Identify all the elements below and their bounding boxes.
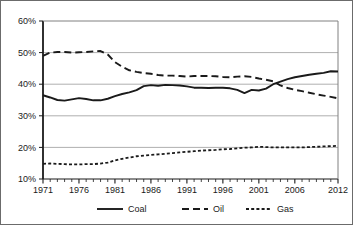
x-axis-tick-label: 1971 bbox=[33, 185, 53, 195]
x-axis-tick-label: 1991 bbox=[177, 185, 197, 195]
y-axis-tick-label: 40% bbox=[18, 79, 36, 89]
x-axis-tick-label: 2012 bbox=[328, 185, 348, 195]
line-chart: 10%20%30%40%50%60% 197119761981198619911… bbox=[1, 1, 353, 225]
x-axis-tick-label: 1981 bbox=[105, 185, 125, 195]
x-axis-tick-labels: 197119761981198619911996200120062012 bbox=[33, 185, 348, 195]
x-axis-tick-label: 2001 bbox=[249, 185, 269, 195]
x-axis-tick-marks bbox=[43, 179, 338, 184]
x-axis-tick-label: 1976 bbox=[69, 185, 89, 195]
x-axis-tick-label: 2006 bbox=[285, 185, 305, 195]
y-axis-tick-label: 30% bbox=[18, 111, 36, 121]
chart-legend: CoalOilGas bbox=[97, 204, 294, 214]
chart-figure: 10%20%30%40%50%60% 197119761981198619911… bbox=[0, 0, 353, 225]
y-axis-tick-label: 10% bbox=[18, 174, 36, 184]
legend-label-coal: Coal bbox=[128, 204, 147, 214]
legend-label-oil: Oil bbox=[213, 204, 224, 214]
x-axis-tick-label: 1986 bbox=[141, 185, 161, 195]
x-axis-tick-label: 1996 bbox=[213, 185, 233, 195]
y-axis-tick-label: 20% bbox=[18, 143, 36, 153]
y-axis-tick-label: 60% bbox=[18, 16, 36, 26]
legend-label-gas: Gas bbox=[277, 204, 294, 214]
y-axis-tick-labels: 10%20%30%40%50%60% bbox=[18, 16, 36, 184]
y-axis-tick-label: 50% bbox=[18, 48, 36, 58]
